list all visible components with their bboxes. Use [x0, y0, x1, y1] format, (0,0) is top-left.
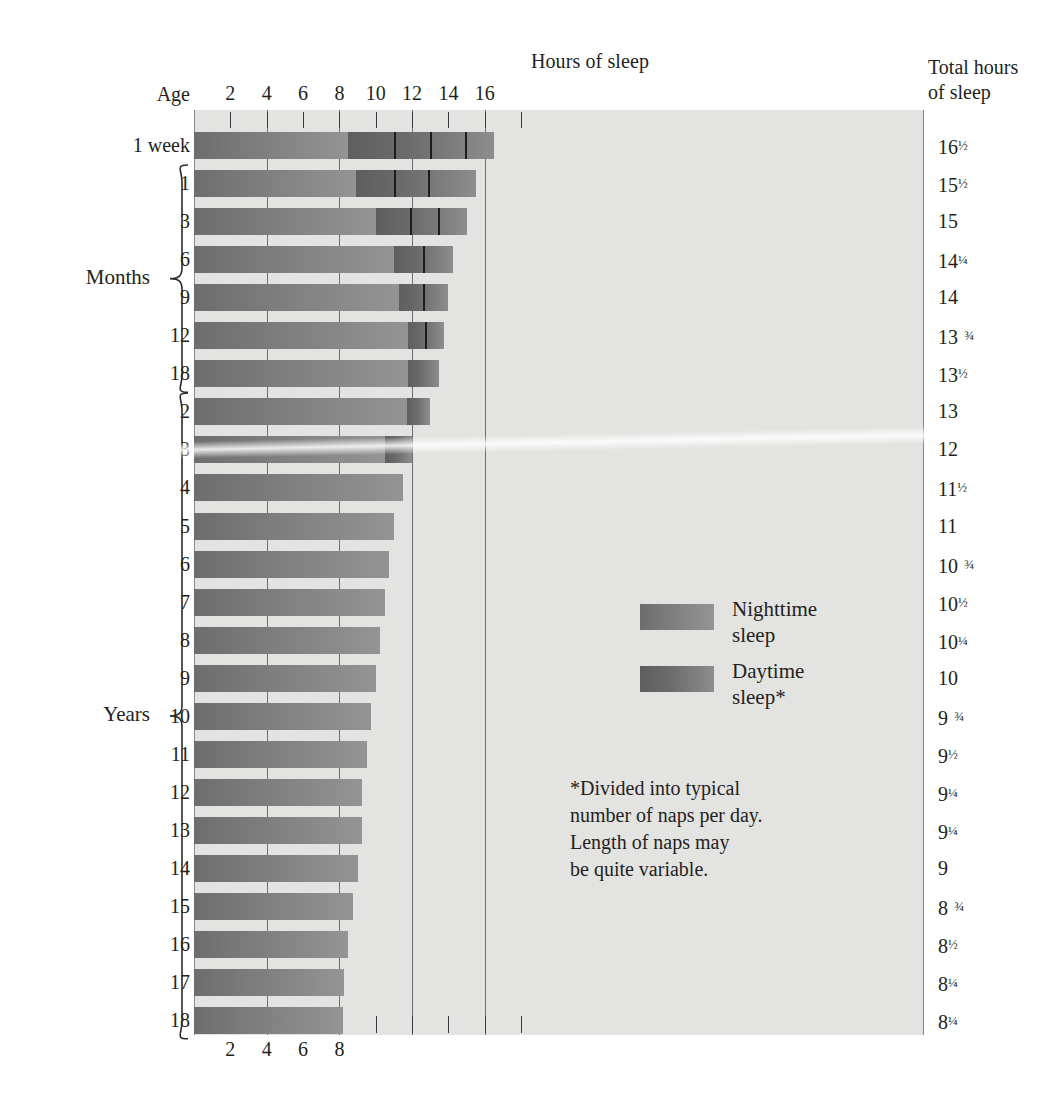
row-total-hours: 9¼ — [938, 779, 1041, 808]
chart-row: 610 ¾ — [0, 551, 1041, 578]
row-total-hours: 10½ — [938, 589, 1041, 618]
footnote-line-1: *Divided into typical — [570, 775, 860, 802]
nap-divider — [438, 208, 440, 235]
legend-label-nighttime: Nighttime sleep — [732, 596, 817, 648]
row-total-hours: 8¼ — [938, 969, 1041, 998]
legend-label-daytime-line1: Daytime — [732, 658, 804, 684]
tick-top-6 — [303, 112, 304, 128]
axis-label-bottom-6: 6 — [283, 1038, 323, 1061]
axis-label-bottom-2: 2 — [210, 1038, 250, 1061]
chart-row: 119½ — [0, 741, 1041, 768]
row-total-hours: 11½ — [938, 474, 1041, 503]
bar-nighttime — [194, 1007, 343, 1034]
axis-label-top-4: 4 — [247, 82, 287, 105]
chart-title: Hours of sleep — [470, 50, 710, 73]
chart-row: 411½ — [0, 474, 1041, 501]
row-total-hours: 13 ¾ — [938, 322, 1041, 351]
nap-divider — [423, 284, 425, 311]
chart-row: 213 — [0, 398, 1041, 425]
bar-nighttime — [194, 931, 348, 958]
axis-label-top-8: 8 — [319, 82, 359, 105]
row-total-hours: 14 — [938, 284, 1041, 311]
bar-nighttime — [194, 208, 376, 235]
footnote-line-4: be quite variable. — [570, 856, 860, 883]
axis-label-bottom-8: 8 — [319, 1038, 359, 1061]
chart-row: 511 — [0, 513, 1041, 540]
bar-nighttime — [194, 627, 380, 654]
chart-row: 188¼ — [0, 1007, 1041, 1034]
sleep-chart-figure: Hours of sleep Age Total hours of sleep … — [0, 0, 1041, 1093]
nap-divider — [465, 132, 467, 159]
bar-nighttime — [194, 703, 371, 730]
row-total-hours: 10 ¾ — [938, 551, 1041, 580]
footnote-line-2: number of naps per day. — [570, 802, 860, 829]
footnote: *Divided into typical number of naps per… — [570, 775, 860, 883]
axis-label-top-10: 10 — [356, 82, 396, 105]
total-hours-header-line2: of sleep — [928, 80, 1038, 105]
legend-swatch-nighttime-icon — [640, 604, 714, 630]
bar-daytime — [408, 360, 439, 387]
row-age-label: 1 week — [60, 132, 190, 159]
bar-nighttime — [194, 513, 394, 540]
row-total-hours: 8¼ — [938, 1007, 1041, 1036]
tick-top-12 — [412, 112, 413, 128]
bar-nighttime — [194, 284, 399, 311]
tick-top-4 — [267, 112, 268, 128]
months-brace — [168, 164, 190, 393]
nap-divider — [394, 132, 396, 159]
chart-row: 129¼ — [0, 779, 1041, 806]
chart-row: 312 — [0, 436, 1041, 463]
nap-divider — [423, 246, 425, 273]
row-total-hours: 16½ — [938, 132, 1041, 161]
bar-nighttime — [194, 132, 348, 159]
axis-label-top-16: 16 — [465, 82, 505, 105]
bar-daytime — [407, 398, 431, 425]
chart-row: 115½ — [0, 170, 1041, 197]
bar-nighttime — [194, 322, 408, 349]
bar-nighttime — [194, 360, 408, 387]
chart-row: 914 — [0, 284, 1041, 311]
bar-daytime — [348, 132, 493, 159]
tick-top-10 — [376, 112, 377, 128]
age-axis-title: Age — [120, 83, 190, 106]
nap-divider — [394, 170, 396, 197]
bar-nighttime — [194, 855, 358, 882]
tick-top-8 — [339, 112, 340, 128]
bar-daytime — [356, 170, 476, 197]
bar-nighttime — [194, 741, 367, 768]
chart-row: 149 — [0, 855, 1041, 882]
bar-nighttime — [194, 817, 362, 844]
axis-label-top-6: 6 — [283, 82, 323, 105]
nap-divider — [410, 208, 412, 235]
row-total-hours: 8 ¾ — [938, 893, 1041, 922]
nap-divider — [428, 170, 430, 197]
years-group-label: Years — [30, 702, 150, 727]
months-group-label: Months — [30, 265, 150, 290]
nap-divider — [425, 322, 427, 349]
chart-row: 178¼ — [0, 969, 1041, 996]
axis-label-top-2: 2 — [210, 82, 250, 105]
bar-nighttime — [194, 893, 353, 920]
chart-row: 1213 ¾ — [0, 322, 1041, 349]
chart-row: 158 ¾ — [0, 893, 1041, 920]
row-total-hours: 9½ — [938, 741, 1041, 770]
chart-row: 168½ — [0, 931, 1041, 958]
bar-nighttime — [194, 589, 385, 616]
chart-row: 139¼ — [0, 817, 1041, 844]
row-total-hours: 15 — [938, 208, 1041, 235]
row-total-hours: 11 — [938, 513, 1041, 540]
bar-nighttime — [194, 436, 385, 463]
tick-top-14 — [448, 112, 449, 128]
legend-label-nighttime-line1: Nighttime — [732, 596, 817, 622]
row-total-hours: 8½ — [938, 931, 1041, 960]
axis-label-top-12: 12 — [392, 82, 432, 105]
axis-label-bottom-4: 4 — [247, 1038, 287, 1061]
chart-row: 614¼ — [0, 246, 1041, 273]
row-total-hours: 15½ — [938, 170, 1041, 199]
row-total-hours: 13 — [938, 398, 1041, 425]
chart-row: 1813½ — [0, 360, 1041, 387]
nap-divider — [430, 132, 432, 159]
bar-nighttime — [194, 551, 389, 578]
years-brace — [168, 392, 190, 1040]
row-total-hours: 13½ — [938, 360, 1041, 389]
